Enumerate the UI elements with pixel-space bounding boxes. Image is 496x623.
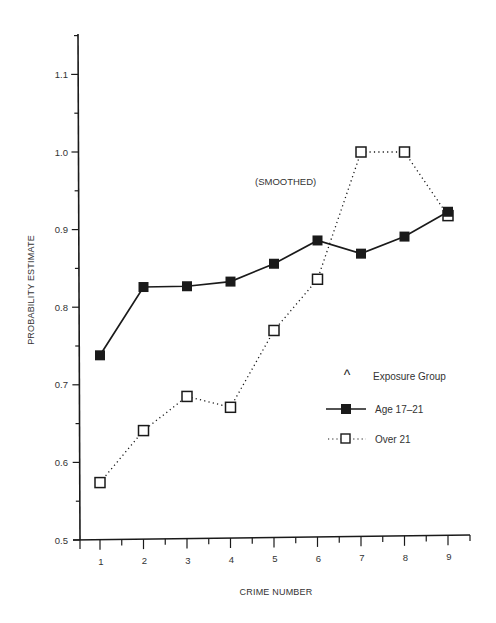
- x-tick-label: 2: [142, 555, 147, 566]
- age-17-21-marker: [182, 281, 192, 291]
- exposure-group-symbol: ^: [344, 367, 351, 383]
- x-tick-label: 7: [359, 552, 364, 563]
- x-axis-title: CRIME NUMBER: [240, 587, 313, 597]
- legend-over-21-label: Over 21: [375, 434, 411, 445]
- x-tick-label: 3: [185, 555, 190, 566]
- age-17-21-marker: [313, 235, 323, 245]
- y-tick-label: 0.8: [55, 302, 68, 313]
- over-21-marker: [269, 325, 279, 335]
- over-21-marker: [400, 147, 410, 157]
- y-axis-title: PROBABILITY ESTIMATE: [26, 235, 36, 345]
- age-17-21-marker: [139, 282, 149, 292]
- legend-filled-square-icon: [341, 404, 351, 414]
- legend-title: Exposure Group: [373, 371, 446, 382]
- age-17-21-marker: [269, 259, 279, 269]
- age-17-21-marker: [226, 277, 236, 287]
- over-21-marker: [356, 147, 366, 157]
- age-17-21-marker: [356, 249, 366, 259]
- age-17-21-marker: [95, 350, 105, 360]
- over-21-line: [100, 152, 448, 483]
- x-tick-label: 8: [403, 552, 408, 563]
- over-21-marker: [313, 274, 323, 284]
- axes: 0.50.60.70.80.91.01.1123456789: [55, 34, 470, 567]
- x-axis-line: [73, 535, 470, 540]
- y-tick-label: 1.0: [55, 147, 68, 158]
- x-tick-label: 1: [98, 556, 103, 567]
- over-21-marker: [182, 391, 192, 401]
- age-17-21-marker: [443, 207, 453, 217]
- over-21-marker: [95, 478, 105, 488]
- x-tick-label: 6: [316, 553, 321, 564]
- y-tick-label: 0.7: [55, 379, 68, 390]
- legend-open-square-icon: [341, 434, 350, 443]
- legend-age-17-21-label: Age 17–21: [375, 404, 424, 415]
- line-chart: 0.50.60.70.80.91.01.1123456789 (SMOOTHED…: [0, 0, 496, 623]
- x-tick-label: 5: [272, 553, 277, 564]
- x-tick-label: 4: [229, 554, 234, 565]
- over-21-marker: [226, 402, 236, 412]
- smoothed-annotation: (SMOOTHED): [255, 176, 316, 187]
- legend: ^ Exposure Group Age 17–21 Over 21: [326, 367, 446, 445]
- age-17-21-marker: [400, 232, 410, 242]
- y-tick-label: 0.9: [55, 224, 68, 235]
- y-axis-line: [78, 34, 80, 540]
- over-21-marker: [139, 426, 149, 436]
- y-tick-label: 0.5: [55, 535, 68, 546]
- x-tick-label: 9: [446, 551, 451, 562]
- y-tick-label: 1.1: [55, 69, 68, 80]
- y-tick-label: 0.6: [55, 457, 68, 468]
